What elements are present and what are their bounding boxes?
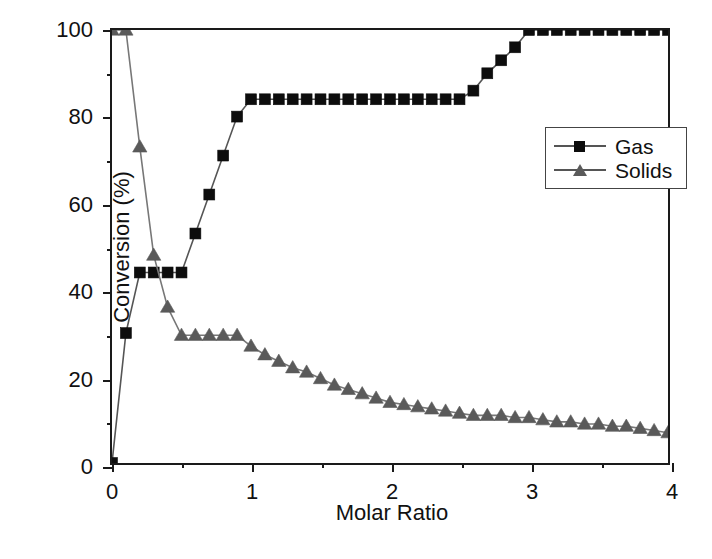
data-point [537, 30, 548, 35]
chart-canvas [112, 30, 668, 463]
data-point [454, 94, 465, 105]
data-point [120, 328, 131, 339]
data-point [301, 94, 312, 105]
data-point [230, 328, 244, 340]
x-tick [392, 463, 394, 472]
data-point [607, 30, 618, 35]
data-point [480, 408, 494, 420]
data-point [244, 339, 258, 351]
y-tick-minor [107, 336, 112, 338]
legend-item-solids[interactable]: Solids [554, 158, 672, 182]
x-tick [532, 463, 534, 472]
x-tick [252, 463, 254, 472]
data-point [134, 267, 145, 278]
legend-item-gas[interactable]: Gas [554, 134, 672, 158]
data-point [398, 94, 409, 105]
y-tick [103, 117, 112, 119]
data-point [357, 94, 368, 105]
data-point [259, 94, 270, 105]
legend-marker-square-icon [554, 137, 606, 155]
data-point [329, 94, 340, 105]
data-point [565, 30, 576, 35]
y-tick-minor [107, 423, 112, 425]
data-point [204, 189, 215, 200]
data-point [621, 30, 632, 35]
y-tick-label: 80 [33, 106, 93, 128]
y-tick [103, 380, 112, 382]
data-point [496, 55, 507, 66]
data-point [579, 30, 590, 35]
data-point [258, 348, 272, 360]
data-point [218, 150, 229, 161]
y-tick-label: 20 [33, 369, 93, 391]
data-point [494, 408, 508, 420]
figure-container: 020406080100 01234 Conversion (%) Molar … [0, 0, 712, 559]
caption-strip [0, 536, 712, 559]
data-point [327, 378, 341, 390]
y-tick [103, 467, 112, 469]
legend-label-gas: Gas [615, 136, 654, 157]
data-point [176, 267, 187, 278]
data-point [635, 30, 646, 35]
data-point [188, 328, 202, 340]
y-tick-minor [107, 74, 112, 76]
data-point [440, 94, 451, 105]
x-tick-minor [602, 463, 604, 468]
data-point [426, 94, 437, 105]
data-point [313, 371, 327, 383]
data-point [174, 328, 188, 340]
x-axis-title: Molar Ratio [112, 500, 672, 526]
data-point [216, 328, 230, 340]
chart-legend[interactable]: Gas Solids [545, 127, 687, 189]
legend-label-solids: Solids [615, 160, 672, 181]
y-tick-label: 40 [33, 281, 93, 303]
data-point [190, 228, 201, 239]
y-tick-minor [107, 161, 112, 163]
data-point [385, 94, 396, 105]
data-point [371, 94, 382, 105]
x-tick-minor [182, 463, 184, 468]
y-tick-label: 0 [33, 456, 93, 478]
x-tick [112, 463, 114, 472]
data-point [524, 30, 535, 35]
data-point [522, 410, 536, 422]
data-point [232, 111, 243, 122]
data-point [591, 417, 605, 429]
data-point [663, 30, 668, 35]
x-tick [672, 463, 674, 472]
data-point [272, 354, 286, 366]
data-point [343, 94, 354, 105]
data-point [412, 94, 423, 105]
data-point [593, 30, 604, 35]
y-tick-label: 100 [33, 19, 93, 41]
data-point [286, 361, 300, 373]
data-point [551, 30, 562, 35]
data-point [468, 85, 479, 96]
data-point [273, 94, 284, 105]
y-tick-label: 60 [33, 194, 93, 216]
data-point [246, 94, 257, 105]
data-point [287, 94, 298, 105]
y-axis-title: Conversion (%) [109, 171, 135, 323]
data-point [147, 248, 161, 260]
x-tick-minor [322, 463, 324, 468]
data-point [160, 300, 174, 312]
plot-area: 020406080100 01234 Conversion (%) Molar … [110, 28, 670, 465]
x-tick-minor [462, 463, 464, 468]
data-point [482, 68, 493, 79]
legend-marker-triangle-icon [554, 161, 606, 179]
data-point [564, 415, 578, 427]
data-point [649, 30, 660, 35]
data-point [619, 419, 633, 431]
data-point [315, 94, 326, 105]
data-point [510, 42, 521, 53]
y-tick [103, 30, 112, 32]
data-point [133, 140, 147, 152]
data-point [202, 328, 216, 340]
data-point [162, 267, 173, 278]
